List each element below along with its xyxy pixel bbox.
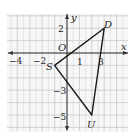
y-tick-label-2: 2 xyxy=(58,24,64,34)
vertex-label-D: D xyxy=(103,19,112,30)
coordinate-plane: y x O −4 −2 1 3 2 −3 −5 S D U xyxy=(0,0,138,140)
vertex-label-U: U xyxy=(87,119,96,130)
y-axis-label: y xyxy=(70,12,77,23)
vertex-label-S: S xyxy=(46,61,53,72)
y-tick-label-neg5: −5 xyxy=(53,112,67,122)
y-tick-label-neg3: −3 xyxy=(53,86,67,96)
x-tick-label-3: 3 xyxy=(98,57,104,67)
x-tick-label-neg4: −4 xyxy=(9,56,23,66)
x-tick-label-neg2: −2 xyxy=(33,56,46,66)
x-tick-label-1: 1 xyxy=(77,57,83,67)
x-axis-label: x xyxy=(121,41,127,52)
origin-label: O xyxy=(58,42,66,53)
